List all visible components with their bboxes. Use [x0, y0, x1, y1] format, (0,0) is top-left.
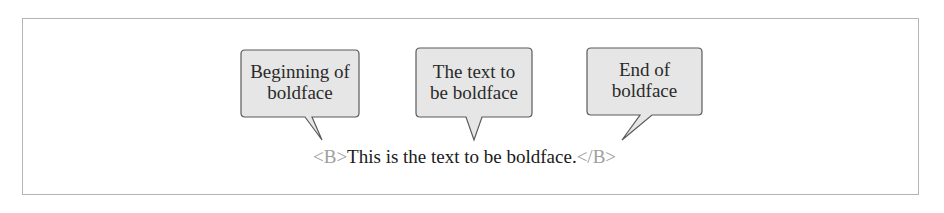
- callout-end-line1: End of: [587, 59, 702, 80]
- callout-begin-line1: Beginning of: [241, 61, 359, 82]
- callout-begin-line2: boldface: [241, 82, 359, 103]
- callout-begin: Beginning of boldface: [241, 61, 359, 103]
- callout-middle-line2: be boldface: [416, 82, 532, 103]
- html-code-example: <B>This is the text to be boldface.</B>: [313, 146, 616, 168]
- callout-middle: The text to be boldface: [416, 61, 532, 103]
- callout-bubbles: [0, 0, 944, 213]
- callout-end-line2: boldface: [587, 80, 702, 101]
- callout-end: End of boldface: [587, 59, 702, 101]
- callout-middle-line1: The text to: [416, 61, 532, 82]
- close-bold-tag: </B>: [577, 146, 616, 167]
- bold-content-text: This is the text to be boldface.: [347, 146, 577, 167]
- open-bold-tag: <B>: [313, 146, 347, 167]
